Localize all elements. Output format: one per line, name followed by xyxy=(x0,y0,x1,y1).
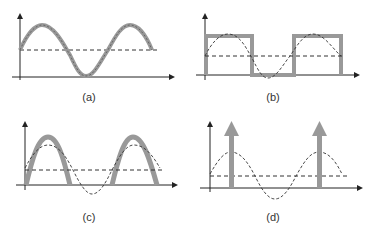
impulse-arrow-1 xyxy=(224,121,239,188)
figure-canvas xyxy=(0,0,376,236)
panel-c xyxy=(16,124,175,194)
panel-c-label: (c) xyxy=(74,211,104,223)
panel-b xyxy=(196,16,357,80)
panel-a-label: (a) xyxy=(74,91,104,103)
panel-b-label: (b) xyxy=(258,91,288,103)
panel-a xyxy=(12,16,172,80)
panel-d xyxy=(200,121,360,199)
impulse-arrow-2 xyxy=(312,121,327,188)
rectified-pulse-1 xyxy=(26,137,70,185)
panel-d-label: (d) xyxy=(258,211,288,223)
rectified-pulse-2 xyxy=(112,137,157,185)
